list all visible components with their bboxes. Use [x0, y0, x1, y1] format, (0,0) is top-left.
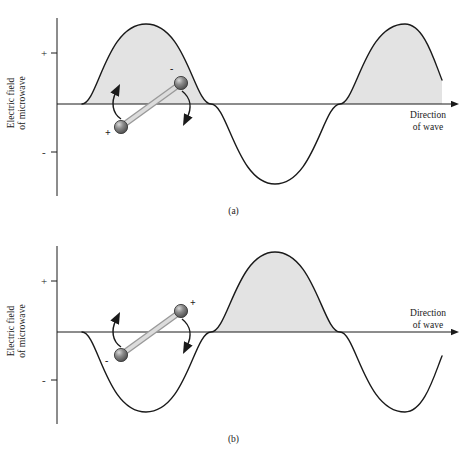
- y-axis-label: Electric field of microwave: [6, 65, 28, 141]
- panel-b-plot: [0, 228, 467, 455]
- rotate-up-arrow: [113, 320, 121, 347]
- x-axis-label-line2: of wave: [392, 320, 464, 332]
- panel-b: Electric field of microwave + - Directio…: [0, 228, 467, 455]
- y-axis-label-line1: Electric field: [6, 65, 17, 141]
- charge-label-lower-left: -: [105, 356, 108, 366]
- charge-label-upper-right: +: [190, 298, 196, 308]
- charge-label-lower-left: +: [105, 128, 111, 138]
- atom-negative: [114, 348, 127, 361]
- x-axis-label: Direction of wave: [392, 308, 464, 331]
- panel-a: Electric field of microwave + - Directio…: [0, 0, 467, 227]
- atom-negative: [174, 76, 187, 89]
- microwave-dipole-figure: Electric field of microwave + - Directio…: [0, 0, 467, 455]
- y-tick-label-minus: -: [42, 147, 46, 158]
- atom-positive: [174, 304, 187, 317]
- x-axis-label-line1: Direction: [392, 110, 464, 122]
- panel-b-caption: (b): [0, 434, 467, 444]
- y-tick-label-plus: +: [41, 48, 47, 59]
- panel-a-caption: (a): [0, 206, 467, 216]
- x-axis-label: Direction of wave: [392, 110, 464, 133]
- y-tick-label-minus: -: [42, 375, 46, 386]
- y-tick-label-plus: +: [41, 276, 47, 287]
- y-axis-label-line1: Electric field: [6, 293, 17, 369]
- atom-positive: [114, 120, 127, 133]
- y-axis-label: Electric field of microwave: [6, 293, 28, 369]
- dipole-bond-highlight: [122, 312, 180, 354]
- charge-label-upper-right: -: [170, 64, 173, 74]
- shaded-positive-lobe-2: [340, 24, 442, 104]
- y-axis-label-line2: of microwave: [17, 293, 28, 369]
- shaded-positive-lobe-1: [82, 24, 211, 104]
- y-axis-label-line2: of microwave: [17, 65, 28, 141]
- x-axis-label-line1: Direction: [392, 308, 464, 320]
- x-axis-label-line2: of wave: [392, 122, 464, 134]
- shaded-positive-lobe-1: [211, 252, 340, 332]
